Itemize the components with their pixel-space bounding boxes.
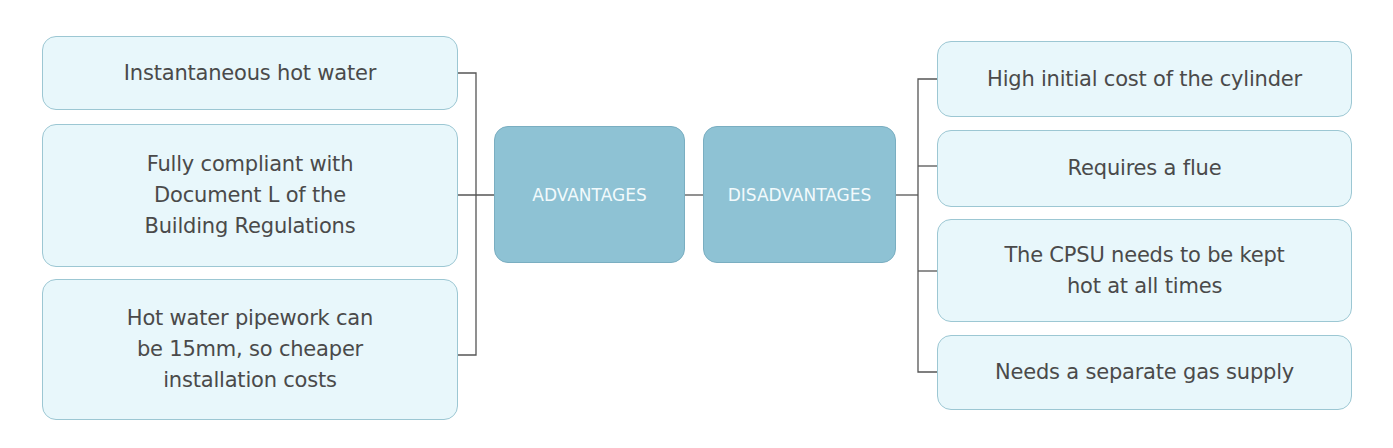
advantage-text-line: installation costs — [163, 365, 337, 396]
disadvantage-item: The CPSU needs to be kept hot at all tim… — [937, 219, 1352, 322]
advantage-text-line: be 15mm, so cheaper — [137, 334, 363, 365]
advantage-text-line: Building Regulations — [145, 211, 356, 242]
disadvantages-label: DISADVANTAGES — [728, 185, 872, 205]
disadvantage-text-line: hot at all times — [1067, 271, 1222, 302]
disadvantages-hub: DISADVANTAGES — [703, 126, 896, 263]
disadvantage-text: High initial cost of the cylinder — [987, 64, 1302, 95]
disadvantage-item: High initial cost of the cylinder — [937, 41, 1352, 117]
advantage-item: Instantaneous hot water — [42, 36, 458, 110]
advantage-item: Hot water pipework can be 15mm, so cheap… — [42, 279, 458, 420]
advantage-text: Instantaneous hot water — [124, 58, 376, 89]
disadvantages-bracket — [918, 79, 937, 372]
advantages-label: ADVANTAGES — [532, 185, 646, 205]
advantage-item: Fully compliant with Document L of the B… — [42, 124, 458, 267]
disadvantage-item: Requires a flue — [937, 130, 1352, 207]
advantages-bracket — [458, 73, 476, 355]
advantage-text-line: Hot water pipework can — [127, 303, 373, 334]
advantages-disadvantages-diagram: Instantaneous hot water Fully compliant … — [0, 0, 1393, 448]
disadvantage-text: Needs a separate gas supply — [995, 357, 1294, 388]
disadvantage-text-line: The CPSU needs to be kept — [1004, 240, 1284, 271]
advantages-hub: ADVANTAGES — [494, 126, 685, 263]
advantage-text-line: Document L of the — [154, 180, 346, 211]
advantage-text-line: Fully compliant with — [147, 149, 354, 180]
disadvantage-text: Requires a flue — [1068, 153, 1222, 184]
disadvantage-item: Needs a separate gas supply — [937, 335, 1352, 410]
